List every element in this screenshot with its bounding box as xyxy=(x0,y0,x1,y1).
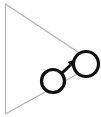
diagram-canvas: Two connected nodes inside a wedge outli… xyxy=(0,0,101,117)
node-lower-left[interactable] xyxy=(42,70,65,93)
node-upper-right-circle xyxy=(74,52,99,77)
node-lower-left-circle xyxy=(42,70,65,93)
node-link-diagram xyxy=(0,0,101,117)
node-upper-right[interactable] xyxy=(74,52,99,77)
